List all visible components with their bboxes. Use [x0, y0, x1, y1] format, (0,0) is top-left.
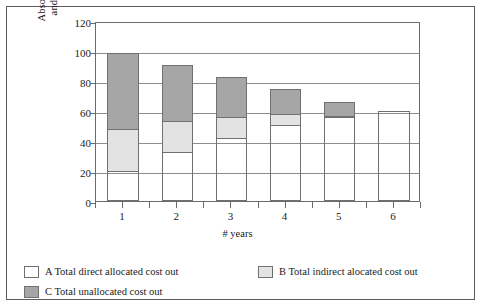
chart-page: Absolute cost development and change in …: [0, 0, 481, 306]
x-tick-mark-1: [149, 202, 150, 208]
x-tick-mark-center-1: [122, 202, 123, 208]
x-axis: 123456: [95, 202, 420, 228]
bar-segment-a-year-3: [216, 138, 247, 201]
bar-segment-a-year-6: [378, 111, 409, 201]
bar-segment-c-year-4: [270, 89, 301, 115]
y-axis-label-line-1: Absolute cost development: [36, 0, 48, 38]
legend-label-a: A Total direct allocated cost out: [45, 266, 179, 278]
bar-year-1: [107, 54, 138, 201]
bar-year-3: [216, 78, 247, 201]
bar-group: [96, 23, 419, 201]
bar-segment-c-year-5: [324, 102, 355, 117]
y-tick-label-80: 80: [57, 78, 91, 89]
bar-year-4: [270, 90, 301, 201]
y-axis-label: Absolute cost development and change in …: [36, 0, 56, 38]
bar-segment-b-year-2: [162, 121, 193, 153]
x-tick-mark-4: [312, 202, 313, 208]
bar-year-2: [162, 66, 193, 201]
legend-swatch-a-icon: [24, 266, 39, 278]
legend-label-b: B Total indirect alocated cost out: [279, 266, 418, 278]
y-tick-label-60: 60: [57, 108, 91, 119]
x-tick-label-2: 2: [174, 210, 180, 222]
legend-swatch-b-icon: [258, 266, 273, 278]
bar-year-5: [324, 103, 355, 201]
legend-item-b: B Total indirect alocated cost out: [258, 266, 418, 278]
bar-segment-a-year-4: [270, 125, 301, 202]
plot-area: 020406080100120: [95, 22, 420, 202]
bar-segment-c-year-3: [216, 77, 247, 118]
x-tick-mark-center-2: [176, 202, 177, 208]
bar-segment-a-year-5: [324, 117, 355, 201]
legend-swatch-c-icon: [24, 286, 39, 298]
bar-segment-c-year-1: [107, 53, 138, 130]
y-tick-label-20: 20: [57, 168, 91, 179]
legend-label-c: C Total unallocated cost out: [45, 286, 162, 298]
y-tick-label-120: 120: [57, 18, 91, 29]
x-tick-mark-center-4: [285, 202, 286, 208]
x-tick-mark-center-6: [393, 202, 394, 208]
legend-item-a: A Total direct allocated cost out: [24, 266, 179, 278]
chart-area: Absolute cost development and change in …: [10, 10, 465, 225]
x-tick-label-1: 1: [119, 210, 125, 222]
y-tick-label-0: 0: [57, 198, 91, 209]
y-tick-label-40: 40: [57, 138, 91, 149]
x-axis-label: # years: [10, 228, 465, 240]
bar-segment-c-year-2: [162, 65, 193, 122]
bar-segment-b-year-3: [216, 117, 247, 140]
x-tick-mark-center-5: [339, 202, 340, 208]
x-tick-mark-0: [95, 202, 96, 208]
bar-segment-a-year-2: [162, 152, 193, 202]
x-tick-mark-center-3: [230, 202, 231, 208]
y-tick-label-100: 100: [57, 48, 91, 59]
bar-segment-b-year-1: [107, 129, 138, 173]
x-tick-mark-3: [258, 202, 259, 208]
chart-legend: A Total direct allocated cost out B Tota…: [24, 252, 454, 296]
bar-year-6: [378, 112, 409, 201]
x-tick-mark-5: [366, 202, 367, 208]
x-tick-label-3: 3: [228, 210, 234, 222]
bar-segment-a-year-1: [107, 171, 138, 201]
x-tick-label-5: 5: [336, 210, 342, 222]
x-tick-label-6: 6: [390, 210, 396, 222]
x-tick-label-4: 4: [282, 210, 288, 222]
x-tick-mark-2: [203, 202, 204, 208]
x-tick-mark-6: [420, 202, 421, 208]
legend-item-c: C Total unallocated cost out: [24, 286, 162, 298]
